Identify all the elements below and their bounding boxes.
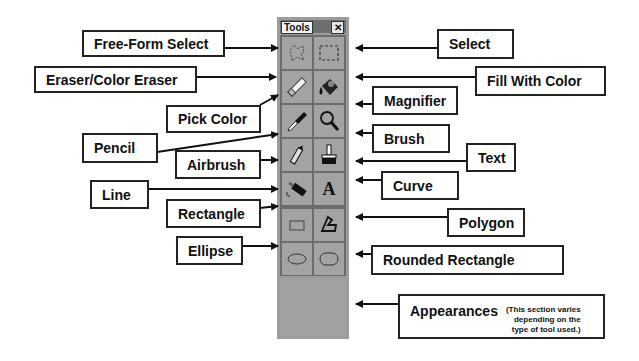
arrow-pick-color <box>260 95 278 105</box>
tool-free-form-select[interactable] <box>282 37 312 69</box>
tool-grid-lower <box>280 207 346 276</box>
label-appearances: Appearances (This section varies dependi… <box>398 294 605 339</box>
brush-icon <box>316 142 342 168</box>
close-icon: ✕ <box>334 22 342 33</box>
tool-pick-color[interactable] <box>282 105 312 137</box>
label-rounded-rectangle: Rounded Rectangle <box>371 245 564 275</box>
label-polygon: Polygon <box>447 208 525 237</box>
label-ellipse: Ellipse <box>176 236 243 265</box>
tool-brush[interactable] <box>314 139 344 171</box>
tool-rounded-rectangle[interactable] <box>314 243 344 275</box>
text-icon: A <box>323 179 336 200</box>
label-eraser: Eraser/Color Eraser <box>34 66 197 93</box>
tool-eraser[interactable] <box>282 71 312 103</box>
polygon-icon <box>316 212 342 238</box>
tool-select[interactable] <box>314 37 344 69</box>
airbrush-icon <box>284 176 310 202</box>
eraser-icon <box>284 74 310 100</box>
tool-rectangle[interactable] <box>282 209 312 241</box>
tool-ellipse[interactable] <box>282 243 312 275</box>
tools-title: Tools <box>281 21 313 34</box>
select-icon <box>316 40 342 66</box>
tool-pencil[interactable] <box>282 139 312 171</box>
tools-titlebar[interactable]: Tools ✕ <box>280 20 346 33</box>
label-pick-color: Pick Color <box>166 105 261 133</box>
tool-airbrush[interactable] <box>282 173 312 205</box>
tools-panel: Tools ✕ <box>277 17 349 339</box>
tool-polygon[interactable] <box>314 209 344 241</box>
ellipse-icon <box>284 246 310 272</box>
tool-magnifier[interactable] <box>314 105 344 137</box>
appearances-title: Appearances <box>410 303 498 319</box>
arrow-rectangle <box>260 206 278 208</box>
label-fill-with-color: Fill With Color <box>475 66 606 96</box>
label-pencil: Pencil <box>82 133 158 163</box>
label-line: Line <box>90 180 149 209</box>
label-select: Select <box>437 29 514 59</box>
close-button[interactable]: ✕ <box>331 21 344 34</box>
label-airbrush: Airbrush <box>175 150 261 179</box>
label-rectangle: Rectangle <box>166 199 261 228</box>
pencil-icon <box>284 142 310 168</box>
appearances-area[interactable] <box>280 279 346 336</box>
appearances-note: (This section varies depending on the ty… <box>506 305 581 335</box>
rounded-rectangle-icon <box>316 246 342 272</box>
label-free-form-select: Free-Form Select <box>82 30 225 57</box>
tool-fill-with-color[interactable] <box>314 71 344 103</box>
label-brush: Brush <box>372 124 450 153</box>
label-text: Text <box>466 143 516 172</box>
rectangle-icon <box>284 212 310 238</box>
fill-bucket-icon <box>316 74 342 100</box>
label-magnifier: Magnifier <box>372 86 458 115</box>
tool-text[interactable]: A <box>314 173 344 205</box>
label-curve: Curve <box>381 171 459 200</box>
eyedropper-icon <box>284 108 310 134</box>
free-form-select-icon <box>284 40 310 66</box>
magnifier-icon <box>316 108 342 134</box>
